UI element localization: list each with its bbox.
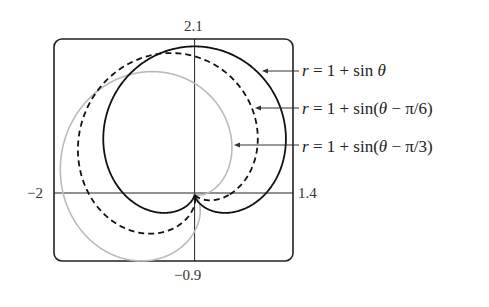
curve-sin-theta-minus-pi3	[60, 72, 232, 261]
x-min-label: −2	[27, 186, 43, 201]
legend-var-r: r	[302, 99, 309, 118]
legend-text: = 1 + sin	[309, 61, 378, 80]
legend-item-3: r = 1 + sin(θ − π/3)	[302, 138, 433, 155]
legend-item-1: r = 1 + sin θ	[302, 62, 386, 79]
legend-suffix: − π/6)	[387, 99, 433, 118]
legend-text: = 1 + sin(	[309, 137, 379, 156]
legend-var-theta: θ	[379, 99, 387, 118]
legend-var-r: r	[302, 137, 309, 156]
legend-text: = 1 + sin(	[309, 99, 379, 118]
legend-var-r: r	[302, 61, 309, 80]
arrowhead-icon	[262, 69, 268, 74]
y-min-label: −0.9	[174, 268, 201, 283]
arrowhead-icon	[255, 106, 261, 111]
legend-var-theta: θ	[379, 137, 387, 156]
y-max-label: 2.1	[184, 19, 203, 34]
curve-sin-theta-minus-pi6	[78, 53, 258, 234]
arrowhead-icon	[234, 143, 240, 148]
legend-suffix: − π/3)	[387, 137, 433, 156]
legend-item-2: r = 1 + sin(θ − π/6)	[302, 100, 433, 117]
legend-var-theta: θ	[377, 61, 385, 80]
x-max-label: 1.4	[298, 186, 317, 201]
